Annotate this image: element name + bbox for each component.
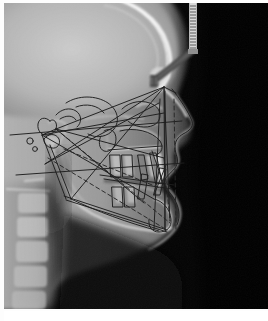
cephalometric-tracing-layer [4, 3, 268, 309]
landmark-marker-basion [33, 147, 38, 152]
tracing-solid-lines [10, 87, 192, 232]
mandibular-plane [64, 196, 167, 230]
figure-caption [4, 311, 268, 321]
s-gn-line [56, 129, 170, 223]
cephalometric-radiograph-image [4, 3, 268, 309]
figure-container [0, 0, 268, 321]
esthetic-reference-line [174, 99, 176, 231]
landmark-marker-porion [27, 138, 33, 144]
palatal-plane [108, 146, 162, 150]
